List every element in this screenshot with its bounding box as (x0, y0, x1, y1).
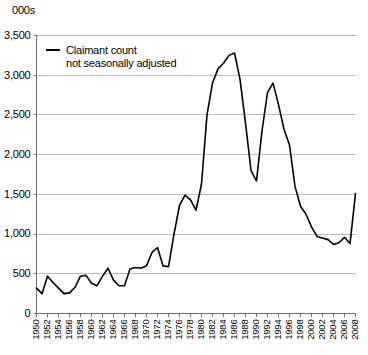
y-axis-tick-label: 1,000 (4, 227, 31, 239)
x-axis-tick-label: 1966 (118, 320, 129, 340)
x-axis-tick-label: 1958 (74, 320, 85, 340)
x-axis-tick-label: 1956 (63, 320, 74, 340)
x-axis-tick-label: 1962 (96, 320, 107, 340)
claimant-count-chart: 000s 05001,0001,5002,0002,5003,0003,500 … (0, 0, 368, 355)
x-axis-tick-label: 1972 (151, 320, 162, 340)
x-axis-tick-label: 1978 (184, 320, 195, 340)
y-axis-tick-label: 0 (25, 307, 31, 319)
x-axis-tick-label: 1952 (41, 320, 52, 340)
x-axis-tick-label: 1964 (107, 320, 118, 340)
x-axis-tick-label: 1950 (30, 320, 41, 340)
y-axis-tick-label: 3,000 (4, 69, 31, 81)
x-axis-tick-label: 2006 (338, 320, 349, 340)
x-axis-tick-label: 1982 (206, 320, 217, 340)
legend-label-line1: Claimant count (66, 44, 137, 56)
y-axis-tick-label: 1,500 (4, 188, 31, 200)
x-axis-tick-label: 1988 (239, 320, 250, 340)
x-axis-tick-label: 2000 (305, 320, 316, 340)
chart-svg: 05001,0001,5002,0002,5003,0003,500 19501… (0, 0, 368, 355)
x-axis-tick-label: 1984 (217, 320, 228, 340)
x-axis-tick-label: 2002 (316, 320, 327, 340)
gridlines (34, 36, 356, 314)
x-axis-tick-label: 1968 (129, 320, 140, 340)
x-axis-tick-label: 1998 (294, 320, 305, 340)
axis-lines (37, 36, 356, 314)
x-axis-tick-label: 1986 (228, 320, 239, 340)
x-axis-tick-labels: 1950195219541956195819601962196419661968… (30, 320, 360, 340)
y-axis-tick-label: 2,500 (4, 108, 31, 120)
data-series (37, 53, 356, 294)
x-axis-tick-label: 1992 (261, 320, 272, 340)
chart-legend: Claimant countnot seasonally adjusted (46, 44, 176, 69)
x-axis-tick-label: 1990 (250, 320, 261, 340)
y-axis-tick-label: 500 (13, 267, 31, 279)
x-axis-tick-label: 1980 (195, 320, 206, 340)
y-axis-tick-labels: 05001,0001,5002,0002,5003,0003,500 (4, 29, 31, 319)
x-axis-tick-label: 1954 (52, 320, 63, 340)
x-axis-tick-label: 1994 (272, 320, 283, 340)
x-axis-tick-label: 1970 (140, 320, 151, 340)
x-axis-tick-label: 2008 (349, 320, 360, 340)
y-axis-tick-label: 3,500 (4, 29, 31, 41)
plot-area-wrapper: 05001,0001,5002,0002,5003,0003,500 19501… (0, 0, 368, 355)
x-axis-tick-label: 1976 (173, 320, 184, 340)
x-axis-tick-label: 1996 (283, 320, 294, 340)
x-axis-tick-label: 2004 (327, 320, 338, 340)
series-line-claimant-count (37, 53, 356, 294)
y-axis-tick-label: 2,000 (4, 148, 31, 160)
x-axis-tick-label: 1960 (85, 320, 96, 340)
x-axis-tick-label: 1974 (162, 320, 173, 340)
legend-label-line2: not seasonally adjusted (66, 57, 176, 69)
